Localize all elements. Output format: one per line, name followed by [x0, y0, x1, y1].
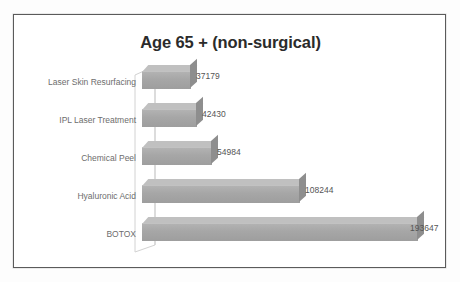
bar-front-face: [142, 109, 197, 127]
category-label: Laser Skin Resurfacing: [0, 77, 136, 87]
bar-1[interactable]: [142, 103, 197, 127]
chart-frame: Age 65 + (non-surgical) Laser Skin Resur…: [13, 14, 446, 268]
category-label: Chemical Peel: [0, 153, 136, 163]
bar-row: BOTOX 193647: [14, 213, 447, 251]
bar-2[interactable]: [142, 141, 212, 165]
bar-row: Chemical Peel 54984: [14, 137, 447, 175]
bar-4[interactable]: [142, 217, 418, 241]
bar-front-face: [142, 71, 191, 89]
bar-row: Laser Skin Resurfacing 37179: [14, 61, 447, 99]
chart-title: Age 65 + (non-surgical): [14, 33, 447, 52]
chart-figure: Age 65 + (non-surgical) Laser Skin Resur…: [0, 0, 460, 282]
category-label: BOTOX: [0, 229, 136, 239]
bar-front-face: [142, 223, 418, 241]
bar-3[interactable]: [142, 179, 300, 203]
bar-value-label: 42430: [202, 109, 226, 119]
bar-value-label: 193647: [410, 223, 438, 233]
bar-value-label: 37179: [196, 71, 220, 81]
bar-row: Hyaluronic Acid 108244: [14, 175, 447, 213]
bar-value-label: 108244: [305, 185, 333, 195]
bar-value-label: 54984: [217, 147, 241, 157]
plot-area: Laser Skin Resurfacing 37179 IPL Laser T…: [14, 61, 447, 261]
bar-front-face: [142, 147, 212, 165]
category-label: IPL Laser Treatment: [0, 115, 136, 125]
category-label: Hyaluronic Acid: [0, 191, 136, 201]
bar-front-face: [142, 185, 300, 203]
bar-0[interactable]: [142, 65, 191, 89]
bar-row: IPL Laser Treatment 42430: [14, 99, 447, 137]
